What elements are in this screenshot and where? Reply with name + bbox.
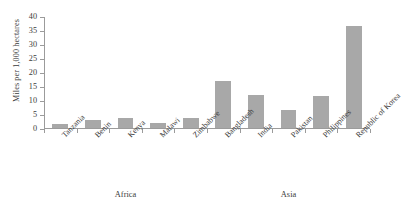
y-tick-label: 40 [29, 12, 37, 22]
y-tick-label: 0 [33, 124, 37, 134]
bar [313, 96, 329, 128]
group-label-africa: Africa [115, 190, 136, 199]
y-tick-label: 30 [29, 40, 37, 50]
y-tick-label: 20 [29, 68, 37, 78]
y-tick-label: 25 [29, 54, 37, 64]
y-tick-label: 10 [29, 96, 37, 106]
x-tick [370, 129, 371, 133]
y-tick-label: 15 [29, 82, 37, 92]
y-axis-title: Miles per 1,000 hectares [12, 1, 21, 121]
bar [281, 110, 297, 128]
bar [215, 81, 231, 128]
group-label-asia: Asia [281, 190, 296, 199]
x-axis-category-labels: TanzaniaBeninKenyaMalawiZimbabweBanglade… [44, 129, 370, 191]
bars-layer [44, 17, 370, 129]
y-tick-label: 5 [33, 110, 37, 120]
plot-area: 0510152025303540 [44, 17, 370, 129]
y-tick-label: 35 [29, 26, 37, 36]
